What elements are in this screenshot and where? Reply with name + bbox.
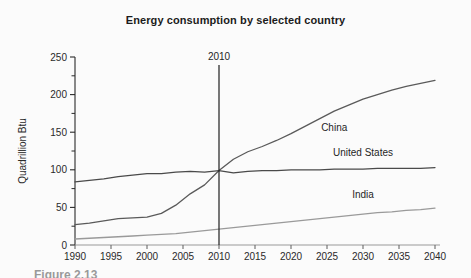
x-ticks-group: 1990199520002005201020152020202520302035… bbox=[64, 245, 447, 262]
y-ticks-group: 050100150200250 bbox=[50, 52, 75, 251]
marker-label-2010: 2010 bbox=[208, 51, 231, 62]
x-tick-label: 2010 bbox=[208, 251, 231, 262]
x-tick-label: 1995 bbox=[100, 251, 123, 262]
series-line-united-states bbox=[75, 168, 435, 182]
x-tick-label: 2025 bbox=[316, 251, 339, 262]
y-tick-label: 0 bbox=[61, 240, 67, 251]
x-tick-label: 2030 bbox=[352, 251, 375, 262]
line-chart: 050100150200250 199019952000200520102015… bbox=[0, 0, 471, 278]
series-labels-group: ChinaUnited StatesIndia bbox=[321, 122, 393, 201]
series-label-united-states: United States bbox=[333, 147, 393, 158]
x-tick-label: 2015 bbox=[244, 251, 267, 262]
x-tick-label: 1990 bbox=[64, 251, 87, 262]
series-lines-group bbox=[75, 80, 435, 239]
x-tick-label: 2000 bbox=[136, 251, 159, 262]
x-tick-label: 2040 bbox=[424, 251, 447, 262]
y-tick-label: 200 bbox=[50, 89, 67, 100]
series-label-india: India bbox=[352, 189, 374, 200]
y-tick-label: 50 bbox=[56, 202, 68, 213]
figure-caption: Figure 2.13 bbox=[34, 268, 464, 278]
x-tick-label: 2035 bbox=[388, 251, 411, 262]
y-tick-label: 100 bbox=[50, 164, 67, 175]
y-axis-label: Quadrillion Btu bbox=[17, 118, 28, 184]
x-tick-label: 2020 bbox=[280, 251, 303, 262]
y-tick-label: 150 bbox=[50, 127, 67, 138]
figure-container: Energy consumption by selected country 0… bbox=[0, 0, 471, 278]
series-label-china: China bbox=[321, 122, 348, 133]
series-line-india bbox=[75, 208, 435, 239]
x-tick-label: 2005 bbox=[172, 251, 195, 262]
y-tick-label: 250 bbox=[50, 52, 67, 63]
year-marker-group: 2010 bbox=[208, 51, 231, 245]
